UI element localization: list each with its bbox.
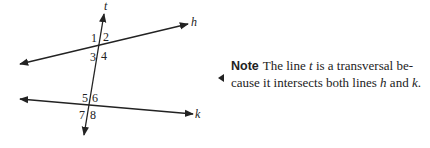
transversal-diagram: t h k 1 2 3 4 5 6 7 8	[0, 0, 215, 148]
pointer-arrow-icon	[218, 74, 224, 82]
note-heading: Note	[231, 59, 259, 73]
note-text: and	[387, 75, 412, 90]
angle-label-8: 8	[90, 108, 96, 122]
note-text: .	[418, 75, 421, 90]
label-h: h	[191, 15, 197, 29]
angle-label-4: 4	[101, 49, 107, 63]
angle-label-3: 3	[90, 50, 96, 64]
angle-label-7: 7	[79, 108, 85, 122]
line-k	[20, 99, 193, 114]
note-callout: NoteThe line t is a transversal be-cause…	[231, 58, 421, 91]
angle-label-6: 6	[92, 91, 98, 105]
note-text: The line	[263, 58, 309, 73]
angle-label-2: 2	[103, 30, 109, 44]
angle-label-1: 1	[91, 31, 97, 45]
angle-label-5: 5	[82, 91, 88, 105]
label-k: k	[195, 107, 201, 121]
label-t: t	[104, 0, 108, 13]
